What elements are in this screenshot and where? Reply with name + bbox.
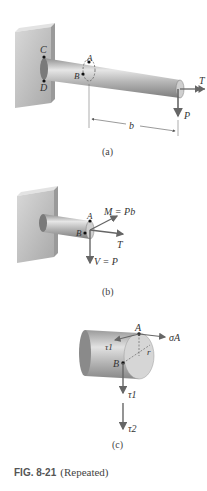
label-b: B [74,71,80,81]
label-t: T [199,75,206,86]
figure-canvas: C D A B T P b (a) A [0,0,207,491]
point-b-b [83,231,86,234]
caption-a: (a) [102,146,113,158]
label-a-b: A [86,211,93,221]
figure-note: (Repeated) [60,466,108,478]
point-c [42,55,45,58]
label-r: r [147,347,151,357]
caption-b: (b) [102,286,114,298]
panel-a: C D A B T P b (a) [15,23,206,158]
torque-arrow-b [90,230,123,234]
label-b-dim: b [129,120,134,131]
label-m: M = Pb [103,206,135,217]
caption-c: (c) [112,439,123,451]
label-a: A [86,53,93,63]
label-b-c: B [113,358,119,369]
label-sigma-a: σA [169,332,181,343]
label-c: C [40,44,47,55]
panel-c: A B σA τ1 r τ1 τ2 (c) [79,322,181,451]
label-tau2: τ2 [128,423,137,434]
label-tau1: τ1 [128,389,137,400]
label-a-c: A [134,322,142,333]
label-v: V = P [94,256,118,267]
label-t-b: T [117,239,124,250]
panel-b: A B M = Pb T V = P (b) [17,186,135,298]
moment-arrow [90,216,117,230]
cylinder-element [79,330,154,379]
point-b [81,72,84,75]
figure-caption: FIG. 8-21(Repeated) [14,466,109,478]
figure-number: FIG. 8-21 [14,467,56,478]
label-p: P [183,110,190,121]
label-tau1-top: τ1 [105,342,113,352]
label-b-b: B [76,228,82,238]
shaft-a [40,58,184,98]
label-d: D [39,82,48,93]
